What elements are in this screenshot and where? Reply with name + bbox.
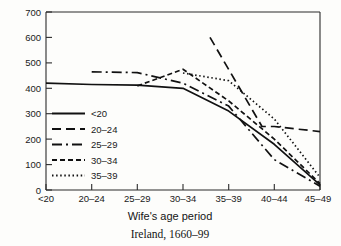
series-line-20-24 [210,37,320,131]
x-axis-tick-labels: <20 20–24 25–29 30–34 35–39 40–44 45–49 [38,193,331,204]
x-tick-label: 25–29 [124,193,150,204]
y-tick-label: 300 [25,108,41,119]
x-tick-label: 30–34 [170,193,196,204]
y-tick-label: 200 [25,134,41,145]
line-chart: 0 100 200 300 400 500 600 700 <20 20–24 … [0,0,341,246]
x-tick-label: 45–49 [305,193,331,204]
legend-label-25-29: 25–29 [91,139,117,150]
y-tick-label: 400 [25,83,41,94]
x-tick-label: 40–44 [261,193,287,204]
y-tick-label: 100 [25,159,41,170]
x-tick-label: 35–39 [215,193,241,204]
series-line-under-20 [46,83,320,185]
x-tick-label: 20–24 [78,193,104,204]
plot-frame [46,12,320,190]
x-tick-label: <20 [38,193,54,204]
series-line-35-39 [183,73,320,177]
y-axis-ticks [46,12,52,190]
legend-label-35-39: 35–39 [91,170,117,181]
x-axis-title: Wife's age period [128,210,213,222]
legend-label-20-24: 20–24 [91,124,117,135]
legend-label-30-34: 30–34 [91,155,117,166]
y-axis-tick-labels: 0 100 200 300 400 500 600 700 [25,7,41,196]
y-tick-label: 600 [25,32,41,43]
chart-figure: 0 100 200 300 400 500 600 700 <20 20–24 … [0,0,341,246]
y-tick-label: 500 [25,57,41,68]
x-axis-ticks [46,184,320,190]
y-tick-label: 700 [25,7,41,18]
figure-caption: Ireland, 1660–99 [131,228,210,241]
legend-label-under-20: <20 [91,108,107,119]
series-line-25-29 [92,72,320,186]
series-group [46,37,320,186]
legend: <20 20–24 25–29 30–34 35–39 [52,108,117,181]
